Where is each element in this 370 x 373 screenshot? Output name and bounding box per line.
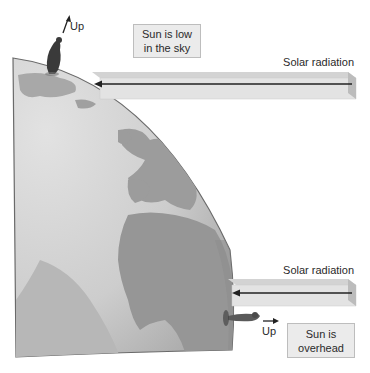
- caption-sun-overhead-line1: Sun is: [288, 327, 354, 341]
- up-label-top: Up: [70, 20, 84, 32]
- caption-sun-overhead: Sun is overhead: [287, 323, 355, 358]
- caption-sun-overhead-line2: overhead: [288, 341, 354, 355]
- solar-radiation-label-top: Solar radiation: [283, 56, 354, 68]
- up-arrow-icon-bottom: [263, 318, 279, 324]
- solar-radiation-beam-bottom: [228, 279, 356, 306]
- earth-globe: [13, 58, 240, 357]
- solar-radiation-label-bottom: Solar radiation: [283, 264, 354, 276]
- solar-radiation-beam-top: [92, 72, 356, 99]
- caption-sun-low-line1: Sun is low: [134, 27, 200, 41]
- caption-sun-low-line2: in the sky: [134, 41, 200, 55]
- caption-sun-low: Sun is low in the sky: [133, 24, 201, 58]
- up-label-bottom: Up: [262, 325, 276, 337]
